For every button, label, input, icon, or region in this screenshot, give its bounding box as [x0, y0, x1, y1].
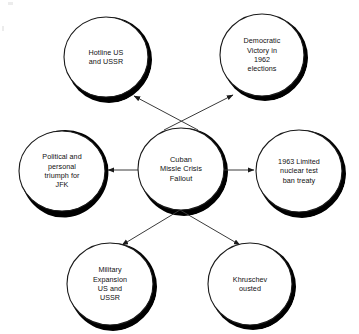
diagram-graphics — [0, 0, 359, 334]
node-central[interactable] — [138, 128, 224, 210]
node-khruschev-ousted[interactable] — [208, 243, 292, 325]
edge-to-khruschev-ousted — [180, 210, 240, 245]
edge-to-military-expansion — [122, 210, 180, 245]
node-test-ban-treaty[interactable] — [256, 130, 342, 212]
node-military-expansion[interactable] — [67, 243, 153, 325]
edge-to-democratic-victory — [164, 95, 233, 130]
node-jfk-triumph[interactable] — [19, 131, 105, 211]
edge-to-hotline — [134, 96, 198, 130]
diagram-canvas: Hotline US and USSR Democratic Victory i… — [0, 0, 359, 334]
node-democratic-victory[interactable] — [220, 14, 304, 96]
node-hotline[interactable] — [64, 17, 148, 97]
